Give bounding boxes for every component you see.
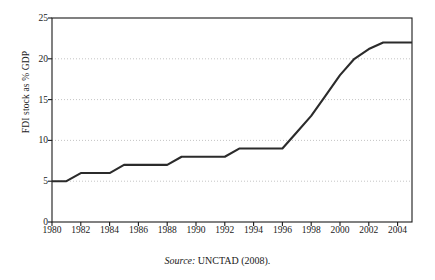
source-value: UNCTAD (2008). [195,255,270,266]
gridlines [52,59,412,181]
y-tick-label: 10 [26,135,48,145]
y-tick-label: 5 [26,176,48,186]
y-tick-label: 25 [26,13,48,23]
chart-figure: FDI stock as % GDP 0510152025 1980198219… [0,0,435,280]
y-tick-marks [48,18,52,222]
source-note: Source: UNCTAD (2008). [0,255,435,266]
plot-frame-rect [52,18,412,222]
y-tick-label: 15 [26,95,48,105]
source-label: Source: [165,255,196,266]
plot-border [52,18,412,222]
x-axis-tick-labels: 1980198219841986198819901992199419961998… [0,225,435,239]
data-series-line [52,42,412,181]
y-tick-label: 20 [26,54,48,64]
x-tick-label: 2004 [378,225,418,236]
